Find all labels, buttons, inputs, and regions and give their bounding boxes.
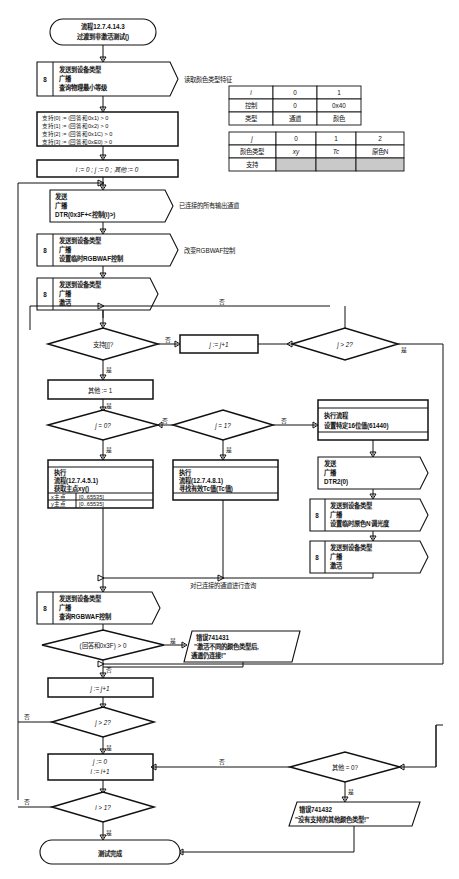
- proc-set-16bit: 执行流程 设置特定16位值(61440): [318, 400, 428, 440]
- decision-other-eq0-text: 其他 = 0?: [332, 763, 359, 772]
- table-control-type: i 0 1 控制 0 0x40 类型 通道 颜色: [229, 86, 361, 125]
- decision-support-j-text: 支持[j]?: [93, 340, 114, 349]
- table1-r0c2: 1: [337, 89, 341, 96]
- error-741431-line3: 通道仍连接!": [191, 651, 226, 660]
- edge-label-yes-j-gt2-top: 是: [401, 347, 407, 354]
- edge-label-no-j-eq1: 否: [281, 418, 287, 425]
- error-741432-line2: "没有支持的其他颜色类型!": [295, 815, 369, 824]
- box-other-equals-1: 其他 := 1: [48, 380, 153, 399]
- proc-get-primary-line1: 执行: [54, 468, 67, 477]
- proc-get-primary-line3: 获取主点xy(): [53, 484, 89, 493]
- box-reset-j-line1: j := 0: [92, 758, 107, 766]
- cmd-query-min-level: 8 发送到设备类型 广播 查询物理最小等级 读取颜色类型特征: [37, 62, 233, 96]
- cmd-query-rgbwaf-line2: 广播: [59, 603, 72, 612]
- cmd-dtr2: 发送 广播 DTR2(0): [318, 457, 428, 489]
- proc-set-16bit-line1: 执行流程: [324, 411, 349, 420]
- cmd-set-temp-rgbwaf: 8 发送到设备类型 广播 设置临时RGBWAF控制 改变RGBWAF控制: [37, 234, 235, 266]
- terminator-start-line2: 过渡到非激活测试(): [77, 32, 129, 41]
- cmd-activate-2-line1: 发送到设备类型: [329, 543, 373, 552]
- terminator-start-line1: 流程12.7.4.14.3: [81, 22, 125, 31]
- cmd-activate-1-line1: 发送到设备类型: [58, 280, 102, 289]
- cmd-set-primary-n-badge: 8: [315, 512, 319, 519]
- proc-get-primary-out1-label: x主点: [51, 493, 66, 501]
- support-assign-line3: 支持[2] := (回答和0x1C) > 0: [42, 130, 112, 138]
- table2-r0c2: 1: [334, 135, 338, 142]
- proc-get-primary-line2: 流程(12.7.4.5.1): [54, 476, 98, 485]
- cmd-dtr2-line1: 发送: [323, 459, 337, 468]
- cmd-set-temp-rgbwaf-line1: 发送到设备类型: [58, 236, 102, 245]
- edge-label-no-support-j: 否: [165, 337, 171, 344]
- table1-r2c1: 通道: [289, 114, 302, 123]
- decision-answer-3f: (回答和0x3F) > 0: [42, 630, 164, 660]
- table2-r1c1: xy: [292, 148, 300, 156]
- edge-label-yes-other1: 是: [106, 403, 112, 410]
- cmd-dtr2-line2: 广播: [324, 468, 337, 477]
- table2-r1c2: Tc: [333, 148, 340, 155]
- table2-r2c0: 支持: [246, 160, 259, 169]
- error-741431-line2: "激活不同的颜色类型后,: [194, 642, 259, 651]
- table1-r2c2: 颜色: [333, 114, 346, 123]
- cmd-set-primary-n-line1: 发送到设备类型: [329, 501, 373, 510]
- terminator-end-text: 测试完成: [98, 849, 123, 858]
- proc-find-tc: 执行 流程(12.7.4.8.1) 寻找有效Tc值(Tc值): [173, 460, 278, 500]
- proc-find-tc-line3: 寻找有效Tc值(Tc值): [179, 484, 233, 493]
- flowchart-page: 流程12.7.4.14.3 过渡到非激活测试() 8 发送到设备类型 广播 查询…: [0, 0, 459, 879]
- box-j-increment-bottom: j := j+1: [48, 678, 153, 697]
- support-assign-line2: 支持[1] := (回答和0x2) > 0: [42, 122, 108, 130]
- edge-label-no-i-gt1: 否: [24, 799, 30, 806]
- edge-label-yes-j-eq0: 是: [106, 447, 112, 454]
- error-741432: 错误741432 "没有支持的其他颜色类型!": [289, 802, 420, 826]
- decision-i-gt1-text: i > 1?: [95, 804, 111, 811]
- box-other-equals-1-text: 其他 := 1: [88, 386, 113, 395]
- error-741431-line1: 错误741431: [196, 633, 230, 642]
- decision-j-gt2-bottom-text: j > 2?: [94, 719, 111, 727]
- table1-r1c1: 0: [293, 102, 297, 109]
- cmd-set-primary-n: 8 发送到设备类型 广播 设置临时原色N调光度: [310, 499, 428, 531]
- support-assign-box: 支持[0] := (回答和0x1) > 0 支持[1] := (回答和0x2) …: [37, 112, 178, 146]
- cmd-query-rgbwaf-line1: 发送到设备类型: [58, 594, 102, 603]
- decision-other-eq0: 其他 = 0?: [290, 752, 400, 782]
- edge-label-no-j-gt2-bottom: 否: [24, 714, 30, 721]
- box-reset-j-increment-i: j := 0 i := i+1: [48, 754, 153, 780]
- edge-label-yes-j-eq1: 是: [226, 447, 232, 454]
- proc-get-primary-out1-range: [0..65535]: [79, 494, 104, 500]
- proc-get-primary-xy: 执行 流程(12.7.4.5.1) 获取主点xy() x主点 [0..65535…: [48, 460, 153, 508]
- cmd-query-rgbwaf-badge: 8: [43, 605, 47, 612]
- table1-r1c0: 控制: [245, 101, 257, 110]
- decision-support-j: 支持[j]?: [48, 328, 158, 360]
- box-j-increment-top-text: j := j+1: [209, 341, 229, 349]
- edge-label-no-answer-3f: 否: [106, 667, 112, 674]
- cmd-set-temp-rgbwaf-line2: 广播: [59, 245, 72, 254]
- edge-label-no-top: 否: [219, 299, 225, 306]
- cmd-set-temp-rgbwaf-note: 改变RGBWAF控制: [184, 246, 235, 255]
- table1-r0c1: 0: [293, 89, 297, 96]
- proc-get-primary-out2-label: y主点: [51, 500, 66, 508]
- init-vars-text: i := 0 ; j := 0 ; 其他 := 0: [76, 166, 139, 174]
- decision-answer-3f-text: (回答和0x3F) > 0: [80, 641, 127, 650]
- decision-i-gt1: i > 1?: [52, 792, 154, 822]
- cmd-query-min-level-line3: 查询物理最小等级: [59, 83, 108, 92]
- table2-r0c1: 0: [294, 135, 298, 142]
- proc-set-16bit-line2: 设置特定16位值(61440): [324, 421, 389, 430]
- cmd-activate-1-badge: 8: [43, 291, 47, 298]
- table1-r1c2: 0x40: [332, 102, 346, 109]
- edge-label-yes-other-eq0: 是: [348, 789, 354, 796]
- proc-find-tc-line1: 执行: [179, 468, 192, 477]
- edge-label-yes-i-gt1: 是: [106, 830, 112, 837]
- cmd-query-min-level-line2: 广播: [59, 74, 72, 83]
- cmd-dtr: 发送 广播 DTR(0x3F+<控制(i)>) 已连接的所有输出通道: [50, 190, 240, 222]
- terminator-start: 流程12.7.4.14.3 过渡到非激活测试(): [50, 19, 156, 45]
- init-vars-box: i := 0 ; j := 0 ; 其他 := 0: [37, 160, 178, 177]
- decision-j-eq1: j = 1?: [173, 410, 273, 440]
- table2-r1c3: 原色N: [372, 147, 389, 155]
- box-j-increment-bottom-text: j := j+1: [90, 685, 110, 693]
- proc-find-tc-line2: 流程(12.7.4.8.1): [179, 476, 223, 485]
- edge-label-no-j-eq0: 否: [162, 418, 168, 425]
- terminator-end: 测试完成: [40, 840, 180, 864]
- decision-j-gt2-top-text: j > 2?: [336, 341, 353, 349]
- cmd-query-rgbwaf-line3: 查询RGBWAF控制: [59, 612, 111, 621]
- proc-get-primary-out2-range: [0..65535]: [79, 501, 104, 507]
- cmd-query-min-level-note: 读取颜色类型特征: [184, 75, 233, 84]
- cmd-query-rgbwaf: 8 发送到设备类型 广播 查询RGBWAF控制 对已连接的通道进行查询: [37, 581, 256, 624]
- cmd-activate-2-line3: 激活: [330, 561, 343, 570]
